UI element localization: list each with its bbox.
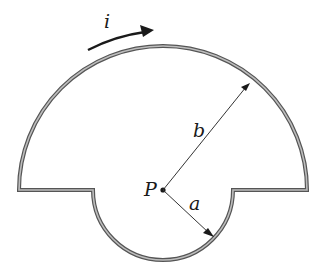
radius-b-arrow-icon bbox=[163, 83, 250, 190]
current-label: i bbox=[104, 10, 110, 32]
wire-loop bbox=[19, 46, 307, 260]
radius-a-label: a bbox=[189, 192, 200, 214]
radius-b-label: b bbox=[193, 119, 205, 141]
point-p-label: P bbox=[143, 178, 158, 200]
current-loop-diagram: i P b a bbox=[0, 0, 318, 276]
